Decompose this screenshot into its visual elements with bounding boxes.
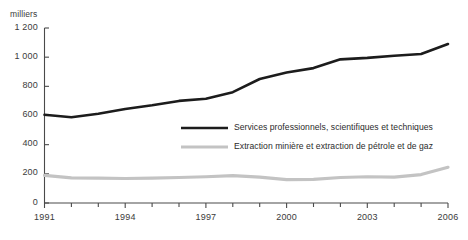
y-tick-label: 200 xyxy=(0,167,38,177)
y-tick-label: 400 xyxy=(0,138,38,148)
y-tick-label: 600 xyxy=(0,109,38,119)
x-tick-label: 2003 xyxy=(337,212,397,222)
x-tick-label: 1994 xyxy=(95,212,155,222)
plot-area xyxy=(0,0,468,240)
x-tick-label: 1997 xyxy=(176,212,236,222)
source-note xyxy=(4,235,464,240)
y-tick-label: 1 000 xyxy=(0,51,38,61)
x-tick-label: 2000 xyxy=(257,212,317,222)
x-tick-label: 2006 xyxy=(418,212,468,222)
y-tick-label: 1 200 xyxy=(0,22,38,32)
y-tick-label: 0 xyxy=(0,197,38,207)
series-line-1 xyxy=(45,44,449,117)
legend-markers xyxy=(181,128,228,147)
legend-label-1: Services professionnels, scientifiques e… xyxy=(234,122,433,132)
chart-figure: milliers 02004006008001 0001 200 1991199… xyxy=(0,0,468,240)
y-tick-label: 800 xyxy=(0,80,38,90)
x-tick-label: 1991 xyxy=(15,212,75,222)
series-line-2 xyxy=(45,167,449,179)
series-lines xyxy=(45,44,449,180)
legend-label-2: Extraction minière et extraction de pétr… xyxy=(234,141,433,151)
